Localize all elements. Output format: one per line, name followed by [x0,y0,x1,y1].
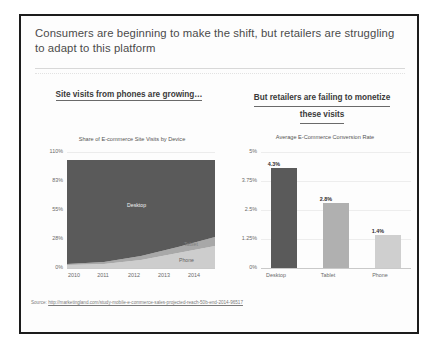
bar-desktop [271,168,297,268]
xtick-right-phone: Phone [359,272,401,278]
title-divider-secondary [35,73,405,74]
area-plot [67,152,215,268]
xtick-right-tablet: Tablet [307,272,349,278]
chart-average-ecommerce-conversion-rate: Average E-Commerce Conversion Rate 5% 3.… [227,130,417,290]
xtick-left-2010: 2010 [59,272,89,278]
ytick-left-28: 28% [31,235,63,241]
ytick-right-375: 3.75% [227,177,257,183]
chart-left-title: Share of E-commerce Site Visits by Devic… [47,136,217,142]
ytick-left-0: 0% [31,264,63,270]
bar-tablet [323,203,349,268]
ytick-right-5: 5% [227,148,257,154]
bar-plot [261,152,409,268]
bar-value-phone: 1.4% [363,228,393,234]
ytick-right-25: 2.5% [227,206,257,212]
slide-canvas: Consumers are beginning to make the shif… [19,14,419,334]
source-note: Source: http://marketingland.com/study-m… [31,300,243,305]
bar-phone [375,235,401,268]
chart-right-title: Average E-Commerce Conversion Rate [245,134,405,140]
ytick-right-125: 1.25% [227,235,257,241]
ytick-left-83: 83% [31,177,63,183]
xtick-left-2014: 2014 [179,272,209,278]
xtick-left-2012: 2012 [119,272,149,278]
source-prefix: Source: [31,300,47,305]
title-block: Consumers are beginning to make the shif… [35,26,407,56]
bar-value-desktop: 4.3% [259,161,289,167]
xtick-left-2011: 2011 [88,272,118,278]
subheading-right-line1: But retailers are failing to monetize [254,90,391,107]
title-divider [35,68,405,69]
series-label-phone: Phone [179,257,194,263]
series-label-desktop: Desktop [127,202,146,208]
source-link[interactable]: http://marketingland.com/study-mobile-e-… [48,300,243,305]
bar-value-tablet: 2.8% [311,196,341,202]
xtick-left-2013: 2013 [149,272,179,278]
gridline-0 [67,268,215,269]
xtick-right-desktop: Desktop [255,272,297,278]
bar-baseline [261,268,411,269]
ytick-left-110: 110% [31,148,63,154]
subheading-right-line2: these visits [300,107,345,124]
subheading-right: But retailers are failing to monetize th… [229,90,415,124]
area-chart-svg [67,152,215,268]
subheading-left: Site visits from phones are growing… [29,90,229,101]
ytick-right-0: 0% [227,264,257,270]
series-label-tablet: Tablet [184,241,198,247]
chart-share-of-ecommerce-site-visits: Share of E-commerce Site Visits by Devic… [29,130,225,290]
ytick-left-55: 55% [31,206,63,212]
page-title: Consumers are beginning to make the shif… [35,26,407,56]
subheading-left-text: Site visits from phones are growing… [56,90,203,101]
